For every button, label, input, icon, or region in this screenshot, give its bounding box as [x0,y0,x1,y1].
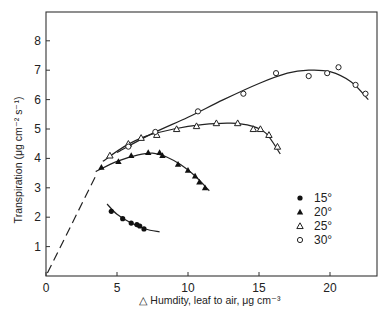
legend-label: 20° [314,205,332,219]
open-circle-marker [325,71,330,76]
legend-label: 15° [314,191,332,205]
y-tick-label: 5 [34,122,41,136]
x-tick-label: 15 [252,281,266,295]
y-tick-label: 6 [34,93,41,107]
filled-circle-marker [137,223,142,228]
open-circle-marker [297,237,302,242]
extrapolation-dashed-line [47,173,97,273]
transpiration-chart: 05101520 12345678 15°20°25°30° △ Humdity… [0,0,387,320]
x-tick-label: 10 [181,281,195,295]
open-circle-marker [306,73,311,78]
y-tick-label: 7 [34,63,41,77]
filled-triangle-marker [202,185,208,191]
open-circle-marker [273,71,278,76]
filled-triangle-marker [98,164,104,170]
fit-curve-open-circle [117,70,368,152]
y-tick-label: 4 [34,151,41,165]
open-triangle-marker [297,223,303,229]
legend-label: 30° [314,233,332,247]
filled-circle-marker [297,195,302,200]
filled-triangle-marker [115,158,121,164]
filled-triangle-marker [297,209,303,215]
y-tick-label: 8 [34,34,41,48]
open-circle-marker [363,91,368,96]
filled-circle-marker [129,220,134,225]
x-tick-label: 20 [323,281,337,295]
x-axis-label: △ Humdity, leaf to air, μg cm⁻³ [139,294,281,306]
legend-label: 25° [314,219,332,233]
x-tick-label: 5 [114,281,121,295]
y-axis-label: Transpiration (μg cm⁻² s⁻¹) [12,97,24,224]
y-tick-label: 3 [34,181,41,195]
fit-curve-filled-circle [107,204,160,232]
filled-triangle-marker [128,152,134,158]
filled-circle-marker [120,216,125,221]
filled-circle-marker [141,226,146,231]
y-axis: 12345678 [34,34,50,254]
open-circle-marker [336,65,341,70]
open-circle-marker [195,109,200,114]
y-tick-label: 1 [34,240,41,254]
legend: 15°20°25°30° [297,191,333,247]
filled-circle-marker [109,209,114,214]
x-tick-label: 0 [43,281,50,295]
open-circle-marker [353,82,358,87]
open-circle-marker [241,91,246,96]
open-circle-marker [153,129,158,134]
open-circle-marker [126,144,131,149]
y-tick-label: 2 [34,210,41,224]
filled-triangle-marker [196,179,202,185]
fit-curve-filled-triangle [96,153,210,191]
filled-triangle-marker [145,149,151,155]
